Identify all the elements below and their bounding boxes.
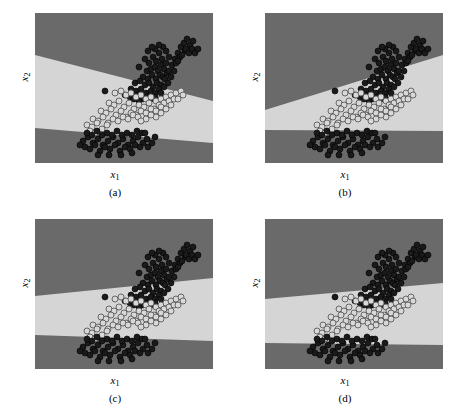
data-point — [358, 90, 364, 96]
data-point — [136, 270, 142, 276]
data-point — [379, 140, 385, 146]
data-point — [179, 52, 185, 58]
data-point — [116, 304, 122, 310]
data-point — [195, 252, 201, 258]
data-point — [138, 292, 144, 298]
data-point — [137, 350, 143, 356]
data-point — [344, 334, 350, 340]
data-point — [118, 314, 124, 320]
data-point — [175, 96, 181, 102]
data-point — [410, 298, 416, 304]
panel-caption-a: (a) — [0, 186, 230, 198]
data-point — [307, 142, 313, 148]
data-point — [118, 294, 124, 300]
data-point — [420, 244, 426, 250]
data-point — [376, 100, 382, 106]
data-point — [195, 46, 201, 52]
data-point — [138, 298, 144, 304]
data-point — [348, 108, 354, 114]
data-point — [166, 260, 172, 266]
data-point — [409, 258, 415, 264]
data-point — [336, 358, 342, 364]
data-point — [89, 338, 95, 344]
data-point — [112, 142, 118, 148]
data-point — [158, 316, 164, 322]
data-point — [382, 340, 388, 346]
data-point — [125, 322, 131, 328]
data-point — [359, 338, 365, 344]
data-point — [359, 150, 365, 156]
data-point — [92, 142, 98, 148]
data-point — [355, 116, 361, 122]
data-point — [100, 320, 106, 326]
data-point — [126, 100, 132, 106]
data-point — [108, 312, 114, 318]
data-point — [324, 128, 330, 134]
data-point — [77, 142, 83, 148]
data-point — [393, 312, 399, 318]
data-point — [148, 300, 154, 306]
plot-area-c — [35, 219, 213, 369]
data-point — [168, 280, 174, 286]
panel-caption-d: (d) — [230, 392, 460, 404]
scatter-svg-d — [265, 219, 443, 369]
data-point — [405, 302, 411, 308]
data-point — [342, 348, 348, 354]
data-point — [322, 348, 328, 354]
data-point — [358, 296, 364, 302]
data-point — [376, 266, 382, 272]
data-point — [391, 290, 397, 296]
data-point — [374, 342, 380, 348]
data-point — [92, 348, 98, 354]
data-point — [405, 58, 411, 64]
data-point — [367, 78, 373, 84]
x-axis-label-c: x1 — [0, 374, 230, 388]
data-point — [317, 146, 323, 152]
data-point — [168, 74, 174, 80]
data-point — [425, 46, 431, 52]
data-point — [374, 136, 380, 142]
data-point — [106, 358, 112, 364]
data-point — [405, 264, 411, 270]
data-point — [114, 128, 120, 134]
data-point — [146, 306, 152, 312]
data-point — [375, 48, 381, 54]
data-point — [94, 334, 100, 340]
data-point — [379, 346, 385, 352]
data-point — [144, 136, 150, 142]
data-point — [334, 122, 340, 128]
panel-caption-c: (c) — [0, 392, 230, 404]
data-point — [129, 132, 135, 138]
data-point — [128, 296, 134, 302]
data-point — [405, 96, 411, 102]
data-point — [112, 348, 118, 354]
data-point — [342, 142, 348, 148]
data-point — [152, 340, 158, 346]
data-point — [368, 118, 374, 124]
data-point — [388, 110, 394, 116]
data-point — [163, 106, 169, 112]
data-point — [138, 86, 144, 92]
data-point — [190, 244, 196, 250]
data-point — [161, 84, 167, 90]
data-point — [367, 284, 373, 290]
data-point — [118, 358, 124, 364]
data-point — [184, 36, 190, 42]
data-point — [144, 342, 150, 348]
data-point — [163, 266, 169, 272]
data-point — [398, 74, 404, 80]
data-point — [378, 300, 384, 306]
y-axis-label-b: x2 — [248, 66, 262, 88]
data-point — [145, 254, 151, 260]
data-point — [356, 306, 362, 312]
data-point — [375, 254, 381, 260]
data-point — [330, 320, 336, 326]
data-point — [393, 48, 399, 54]
data-point — [378, 318, 384, 324]
panel-d: x2 x1 (d) — [230, 206, 460, 412]
data-point — [367, 350, 373, 356]
data-point — [148, 318, 154, 324]
data-point — [107, 352, 113, 358]
data-point — [171, 68, 177, 74]
data-point — [325, 152, 331, 158]
